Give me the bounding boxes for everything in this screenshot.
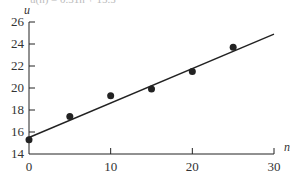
data-point: [107, 92, 114, 99]
x-tick-label: 30: [268, 159, 281, 174]
scatter-chart: 141618202224260102030un: [0, 0, 295, 181]
y-tick-label: 16: [11, 124, 25, 139]
y-axis-label: u: [24, 3, 30, 17]
data-point: [66, 113, 73, 120]
y-tick-label: 20: [11, 80, 24, 95]
data-point: [26, 136, 33, 143]
y-tick-label: 18: [11, 102, 24, 117]
x-tick-label: 10: [104, 159, 117, 174]
data-point: [148, 86, 155, 93]
x-axis-label: n: [284, 140, 290, 154]
data-point: [230, 44, 237, 51]
y-tick-label: 24: [11, 36, 25, 51]
x-tick-label: 0: [26, 159, 33, 174]
x-tick-label: 20: [186, 159, 199, 174]
y-tick-label: 22: [11, 58, 24, 73]
data-point: [189, 68, 196, 75]
y-tick-label: 14: [11, 146, 25, 161]
y-tick-label: 26: [11, 14, 25, 29]
